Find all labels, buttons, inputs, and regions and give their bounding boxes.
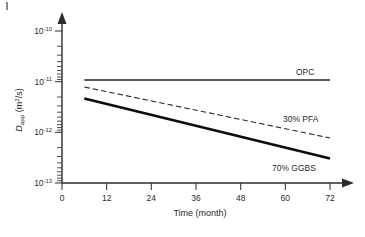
y-axis-title: Dapp (m2/s) bbox=[13, 88, 25, 131]
x-tick-label: 12 bbox=[102, 193, 112, 203]
x-tick-label: 60 bbox=[281, 193, 291, 203]
y-tick-label: 10-12 bbox=[34, 127, 52, 137]
x-tick-label: 0 bbox=[60, 193, 65, 203]
x-tick-label: 48 bbox=[236, 193, 246, 203]
x-axis: 0 12 24 36 48 60 72 Time (month) bbox=[60, 179, 354, 219]
series-labels: OPC 30% PFA 70% GGBS bbox=[272, 67, 319, 173]
y-tick-label: 10-10 bbox=[34, 26, 52, 36]
series-label-opc: OPC bbox=[296, 67, 314, 77]
y-tick-label: 10-11 bbox=[35, 76, 52, 86]
chart-figure: 10-10 10-11 10-12 10-13 Dapp (m2/s) 0 12… bbox=[0, 0, 365, 237]
y-axis-arrowhead bbox=[58, 12, 67, 24]
y-axis: 10-10 10-11 10-12 10-13 Dapp (m2/s) bbox=[13, 12, 67, 188]
scan-artifact bbox=[6, 2, 8, 10]
x-tick-label: 36 bbox=[191, 193, 201, 203]
series-label-ggbs: 70% GGBS bbox=[272, 163, 316, 173]
x-axis-arrowhead bbox=[342, 179, 354, 188]
x-tick-label: 24 bbox=[147, 193, 157, 203]
series-line-pfa bbox=[84, 87, 330, 138]
series-label-pfa: 30% PFA bbox=[283, 114, 319, 124]
y-tick-label: 10-13 bbox=[34, 178, 52, 188]
series-line-ggbs bbox=[84, 99, 330, 159]
x-tick-label: 72 bbox=[325, 193, 335, 203]
x-axis-title: Time (month) bbox=[173, 208, 226, 218]
